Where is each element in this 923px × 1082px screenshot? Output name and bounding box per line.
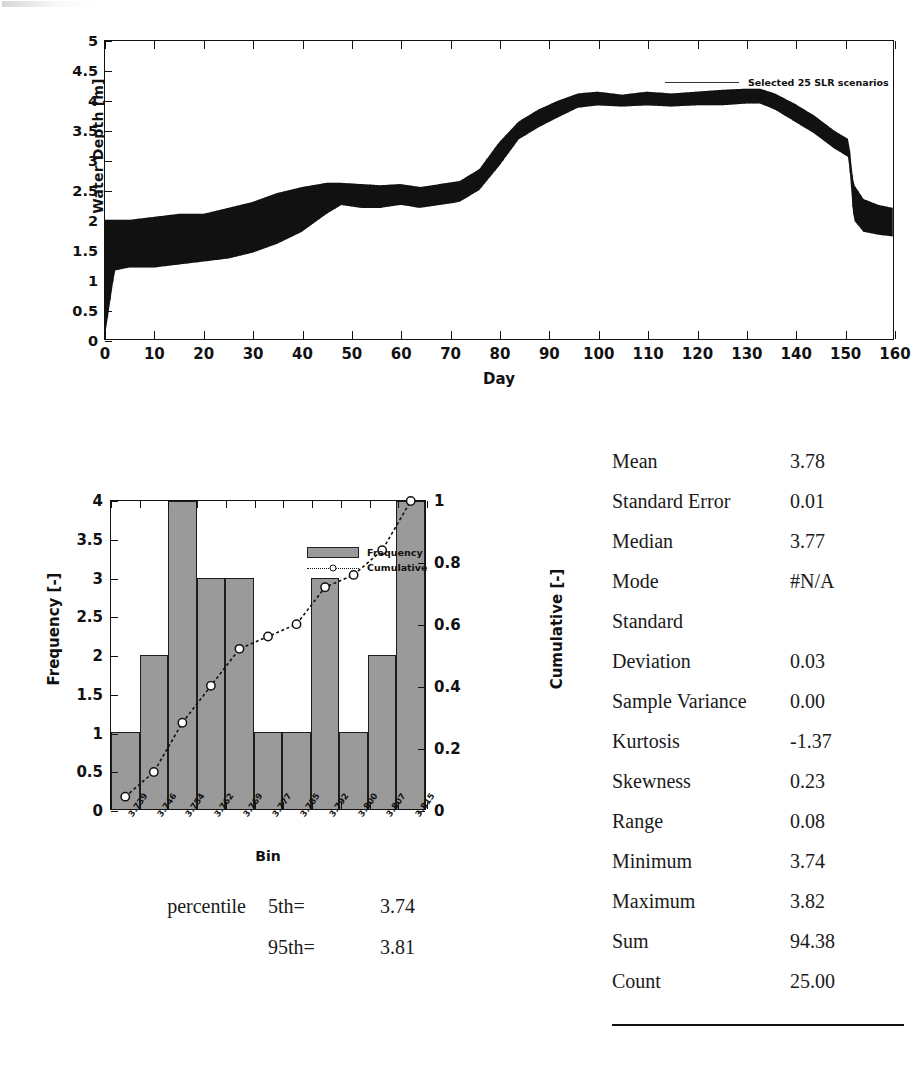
timeseries-x-axis-label: Day — [104, 370, 894, 388]
statistic-value: 0.00 — [790, 690, 900, 713]
percentile-row: percentile5th=3.74 — [0, 895, 580, 918]
timeseries-x-tick-mark-top — [747, 41, 748, 49]
timeseries-chart: Water Depth [m] 00.511.522.533.544.55 01… — [0, 18, 923, 398]
timeseries-x-tick-mark — [500, 331, 501, 339]
timeseries-x-tick-label: 80 — [490, 345, 511, 363]
legend-line-swatch — [665, 82, 739, 83]
histogram-y-tick-mark-left — [111, 811, 118, 812]
timeseries-x-tick-label: 110 — [632, 345, 663, 363]
statistics-row: Sample Variance0.00 — [612, 690, 912, 730]
frequency-legend-label: Frequency — [367, 547, 423, 558]
timeseries-y-tick-mark — [105, 281, 112, 282]
statistics-row: Mode#N/A — [612, 570, 912, 610]
timeseries-x-tick-mark-top — [105, 41, 106, 49]
timeseries-x-tick-mark-top — [352, 41, 353, 49]
histogram-x-tick-mark-top — [140, 501, 141, 508]
timeseries-x-tick-mark-top — [796, 41, 797, 49]
histogram-x-tick-mark-top — [226, 501, 227, 508]
histogram-y-tick-label-left: 3 — [93, 569, 103, 587]
histogram-x-tick-mark-top — [427, 501, 428, 508]
timeseries-x-tick-mark-top — [204, 41, 205, 49]
statistic-value: 3.77 — [790, 530, 900, 553]
timeseries-plot-area: 00.511.522.533.544.55 010203040506070809… — [104, 40, 894, 340]
timeseries-y-tick-mark — [105, 251, 112, 252]
timeseries-x-tick-mark — [154, 331, 155, 339]
histogram-y-axis-label-left: Frequency [-] — [45, 549, 63, 709]
statistic-label: Kurtosis — [612, 730, 790, 753]
timeseries-x-tick-label: 140 — [781, 345, 812, 363]
timeseries-x-tick-mark — [895, 331, 896, 339]
timeseries-y-tick-label: 4.5 — [72, 63, 98, 79]
histogram-y-tick-mark-right — [418, 687, 425, 688]
statistics-bottom-rule — [612, 1024, 904, 1026]
timeseries-y-tick-label: 5 — [88, 33, 98, 49]
statistics-row: Kurtosis-1.37 — [612, 730, 912, 770]
histogram-y-tick-mark-left — [111, 695, 118, 696]
statistics-row: Skewness0.23 — [612, 770, 912, 810]
histogram-plot-area: 00.511.522.533.54 00.20.40.60.81 3.7393.… — [110, 500, 426, 810]
timeseries-x-tick-label: 20 — [193, 345, 214, 363]
timeseries-x-tick-mark — [303, 331, 304, 339]
statistic-label: Sum — [612, 930, 790, 953]
timeseries-y-tick-mark — [105, 41, 112, 42]
histogram-y-tick-label-right: 0 — [434, 802, 444, 820]
timeseries-x-tick-mark — [401, 331, 402, 339]
timeseries-x-tick-mark-top — [698, 41, 699, 49]
percentile-word: percentile — [0, 895, 246, 918]
statistic-value: 0.23 — [790, 770, 900, 793]
timeseries-x-tick-label: 130 — [731, 345, 762, 363]
timeseries-x-tick-label: 60 — [391, 345, 412, 363]
histogram-y-tick-label-right: 0.8 — [434, 554, 461, 572]
histogram-x-tick-mark-top — [370, 501, 371, 508]
statistics-row: Sum94.38 — [612, 930, 912, 970]
timeseries-x-tick-mark — [599, 331, 600, 339]
statistic-value: 0.03 — [790, 650, 900, 673]
histogram-x-tick-mark-top — [312, 501, 313, 508]
timeseries-x-tick-mark — [698, 331, 699, 339]
histogram-y-tick-label-left: 3.5 — [76, 530, 103, 548]
statistic-value: 0.08 — [790, 810, 900, 833]
timeseries-x-tick-label: 100 — [583, 345, 614, 363]
statistic-label: Range — [612, 810, 790, 833]
histogram-bar — [168, 501, 197, 809]
timeseries-x-tick-label: 10 — [144, 345, 165, 363]
timeseries-x-tick-label: 0 — [100, 345, 110, 363]
timeseries-x-tick-mark — [846, 331, 847, 339]
statistic-label: Sample Variance — [612, 690, 790, 713]
histogram-chart: Frequency [-] Cumulative [-] 00.511.522.… — [0, 470, 580, 900]
statistics-row: Standard Error0.01 — [612, 490, 912, 530]
histogram-bar — [197, 578, 226, 809]
statistics-row: Minimum3.74 — [612, 850, 912, 890]
legend-item-frequency: Frequency — [307, 547, 428, 558]
timeseries-x-tick-mark — [549, 331, 550, 339]
histogram-x-tick-mark-top — [197, 501, 198, 508]
timeseries-y-tick-mark — [105, 131, 112, 132]
cumulative-legend-label: Cumulative — [367, 562, 428, 573]
timeseries-y-tick-label: 1 — [88, 273, 98, 289]
histogram-bar — [311, 578, 340, 809]
timeseries-x-tick-mark-top — [154, 41, 155, 49]
statistic-label: Count — [612, 970, 790, 993]
frequency-swatch — [307, 547, 359, 558]
percentile-row: 95th=3.81 — [0, 936, 580, 959]
timeseries-y-tick-mark — [105, 341, 112, 342]
timeseries-y-tick-mark — [105, 311, 112, 312]
timeseries-y-tick-label: 3.5 — [72, 123, 98, 139]
histogram-x-tick-mark-top — [398, 501, 399, 508]
timeseries-x-tick-label: 40 — [292, 345, 313, 363]
histogram-y-tick-label-right: 1 — [434, 492, 444, 510]
histogram-x-tick-mark-top — [111, 501, 112, 508]
timeseries-x-tick-mark-top — [401, 41, 402, 49]
timeseries-legend: Selected 25 SLR scenarios — [665, 77, 889, 88]
timeseries-x-tick-mark-top — [500, 41, 501, 49]
statistic-value: -1.37 — [790, 730, 900, 753]
timeseries-x-tick-mark-top — [451, 41, 452, 49]
timeseries-y-tick-mark — [105, 71, 112, 72]
statistic-value: 94.38 — [790, 930, 900, 953]
scan-artifact — [2, 1, 98, 7]
legend-label: Selected 25 SLR scenarios — [748, 77, 889, 88]
percentile-value: 3.74 — [380, 895, 490, 918]
statistic-label: Minimum — [612, 850, 790, 873]
histogram-y-tick-label-right: 0.4 — [434, 678, 461, 696]
statistic-value: 3.74 — [790, 850, 900, 873]
